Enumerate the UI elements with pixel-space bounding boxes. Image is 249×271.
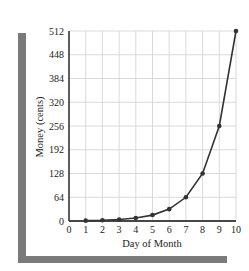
y-tick-label: 64 [54,192,64,203]
x-tick-label: 5 [150,224,155,235]
x-tick-label: 3 [117,224,122,235]
y-tick-label: 512 [49,26,64,37]
x-axis-ticks: 012345678910 [67,224,242,235]
x-tick-label: 9 [217,224,222,235]
line-chart: 064128192256320384448512 012345678910 Mo… [0,0,249,271]
x-tick-label: 10 [231,224,241,235]
x-axis-label: Day of Month [122,238,182,249]
y-axis-ticks: 064128192256320384448512 [49,26,64,227]
grid-lines [69,31,236,221]
data-point-marker [83,218,88,223]
y-tick-label: 384 [49,73,64,84]
data-point-marker [184,195,189,200]
data-point-marker [200,171,205,176]
data-point-marker [150,213,155,218]
x-tick-label: 8 [200,224,205,235]
y-tick-label: 192 [49,144,64,155]
x-tick-label: 7 [183,224,188,235]
data-point-marker [134,216,139,221]
y-tick-label: 256 [49,121,64,132]
x-tick-label: 4 [133,224,138,235]
x-tick-label: 0 [67,224,72,235]
data-point-marker [234,29,239,34]
data-point-marker [217,124,222,129]
y-tick-label: 448 [49,49,64,60]
y-tick-label: 320 [49,97,64,108]
x-tick-label: 6 [167,224,172,235]
data-point-marker [167,207,172,212]
y-tick-label: 0 [59,216,64,227]
data-point-marker [117,217,122,222]
y-axis-label: Money (cents) [34,96,46,157]
y-tick-label: 128 [49,168,64,179]
data-point-marker [100,218,105,223]
x-tick-label: 2 [100,224,105,235]
x-tick-label: 1 [83,224,88,235]
